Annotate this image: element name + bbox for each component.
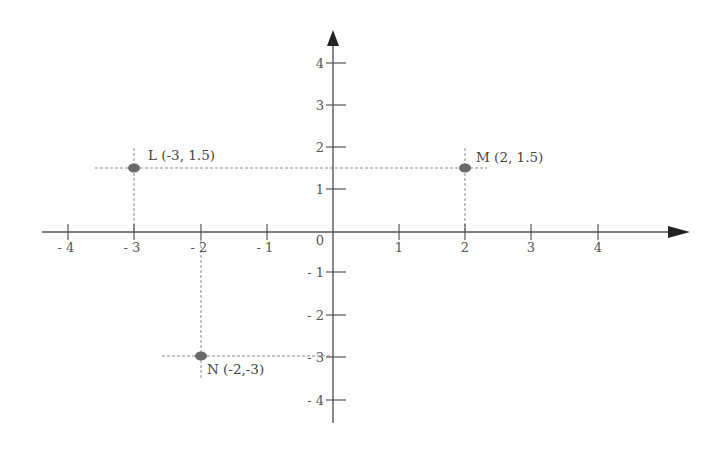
x-tick-label: - 4 — [58, 240, 75, 255]
y-tick-label: 2 — [316, 140, 324, 155]
point-M-marker — [459, 164, 471, 173]
x-axis-arrow-icon — [668, 226, 690, 238]
point-N-marker — [195, 352, 207, 361]
x-tick-label: - 1 — [257, 240, 274, 255]
point-M-label: M (2, 1.5) — [476, 149, 543, 165]
y-axis-arrow-icon — [327, 30, 339, 46]
x-tick-label: 4 — [594, 240, 602, 255]
x-tick-label: - 2 — [191, 240, 208, 255]
coordinate-plane-svg: - 4 - 3 - 2 - 1 1 2 3 4 0 4 3 2 1 - 1 - … — [0, 0, 706, 453]
y-tick-label: 3 — [316, 98, 324, 113]
y-tick-label: - 4 — [307, 393, 324, 408]
guide-lines — [95, 148, 487, 378]
y-tick-label: - 3 — [307, 350, 324, 365]
x-ticks: - 4 - 3 - 2 - 1 1 2 3 4 0 — [58, 224, 603, 255]
x-tick-label: 1 — [395, 240, 403, 255]
y-tick-label: - 2 — [307, 308, 324, 323]
origin-label: 0 — [316, 233, 324, 248]
x-tick-label: - 3 — [124, 240, 141, 255]
point-N-label: N (-2,-3) — [207, 361, 264, 377]
axes — [42, 30, 690, 423]
x-tick-label: 2 — [461, 240, 469, 255]
y-tick-label: 4 — [316, 56, 324, 71]
point-L-label: L (-3, 1.5) — [148, 147, 215, 163]
x-tick-label: 3 — [527, 240, 535, 255]
coordinate-plane-diagram: - 4 - 3 - 2 - 1 1 2 3 4 0 4 3 2 1 - 1 - … — [0, 0, 706, 453]
y-tick-label: - 1 — [307, 265, 324, 280]
y-tick-label: 1 — [316, 182, 324, 197]
points: L (-3, 1.5) M (2, 1.5) N (-2,-3) — [128, 147, 543, 377]
point-L-marker — [128, 164, 140, 173]
